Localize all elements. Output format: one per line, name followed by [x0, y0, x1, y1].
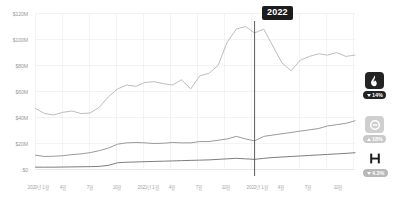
h-change-pill: 4.3%: [363, 169, 388, 177]
arrow-down-icon: [367, 94, 371, 97]
year-annotation-badge[interactable]: 2022: [262, 6, 293, 20]
series-lines: [36, 27, 356, 168]
x-tick-label: 2020년 1월: [28, 184, 49, 190]
flame-change-value: 14%: [372, 93, 383, 98]
x-tick-label: 10월: [222, 184, 231, 190]
legend-item-h[interactable]: 4.3%: [363, 150, 388, 177]
circle-badge[interactable]: [365, 116, 384, 133]
x-tick-label: 4월: [60, 184, 66, 190]
letter-h-icon: [368, 152, 382, 165]
circle-minus-icon: [369, 119, 381, 131]
plot-area: [0, 0, 399, 203]
x-tick-label: 10월: [334, 184, 343, 190]
x-tick-label: 7월: [305, 184, 311, 190]
flame-icon: [369, 75, 380, 87]
series-line-h-letter: [36, 153, 356, 167]
x-tick-label: 10월: [113, 184, 122, 190]
circle-change-pill: 18%: [363, 135, 386, 143]
x-tick-label: 7월: [196, 184, 202, 190]
series-line-circle: [36, 121, 356, 157]
circle-change-value: 18%: [372, 137, 383, 142]
x-tick-label: 2021년 1월: [138, 184, 159, 190]
h-change-value: 4.3%: [372, 171, 384, 176]
x-tick-label: 7월: [87, 184, 93, 190]
flame-badge[interactable]: [365, 72, 384, 89]
x-tick-label: 4월: [169, 184, 175, 190]
h-badge[interactable]: [366, 150, 385, 167]
legend-item-flame[interactable]: 14%: [363, 72, 386, 99]
grid-lines: [35, 13, 355, 170]
x-tick-label: 4월: [278, 184, 284, 190]
line-chart: $120M $100M $80M $60M $40M $20M $0: [0, 0, 399, 203]
arrow-down-icon: [367, 172, 371, 175]
x-tick-label: 2022년 1월: [247, 184, 268, 190]
flame-change-pill: 14%: [363, 91, 386, 99]
legend-item-circle[interactable]: 18%: [363, 116, 386, 143]
arrow-up-icon: [367, 138, 371, 141]
